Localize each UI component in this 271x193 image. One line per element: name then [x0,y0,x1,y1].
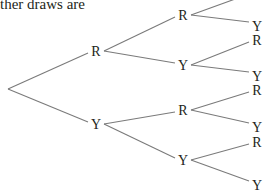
node-label-level1: R [91,44,101,59]
node-label-level2: R [178,8,188,23]
node-label-level3: Y [252,178,262,193]
node-label-level2: Y [178,153,188,168]
branch-edge [191,110,249,123]
branch-edge [191,144,249,160]
node-label-level3: Y [252,69,262,84]
branch-edge [191,15,249,22]
branch-edge [8,53,88,89]
branch-edge [104,124,175,158]
branch-edge [104,51,175,63]
branch-edge [191,160,249,181]
branch-edge [104,17,175,51]
node-label-level2: R [178,103,188,118]
node-label-level2: Y [178,58,188,73]
node-label-level3: R [252,83,262,98]
node-label-level3: R [252,135,262,150]
node-label-level3: Y [252,19,262,34]
node-label-level3: Y [252,120,262,135]
branch-edge [104,112,175,124]
branch-edge [191,0,249,15]
branch-edge [8,89,88,122]
branch-edge [191,92,249,110]
branch-edge [191,42,249,65]
node-label-level3: R [252,33,262,48]
probability-tree-diagram: RYRYRYRYRYRYRY [0,0,271,193]
node-label-level1: Y [91,117,101,132]
branch-edge [191,65,249,72]
